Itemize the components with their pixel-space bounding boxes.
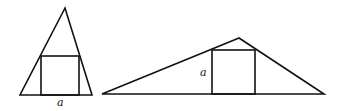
wide-triangle	[102, 38, 324, 94]
tall-triangle-figure: a	[20, 8, 92, 109]
side-label-a-left: a	[57, 96, 64, 109]
side-label-a-right: a	[200, 66, 207, 79]
inscribed-square-right	[212, 50, 255, 94]
diagram-canvas: a a	[0, 0, 338, 111]
wide-triangle-figure: a	[102, 38, 324, 94]
tall-triangle	[20, 8, 92, 95]
inscribed-square-left	[41, 56, 79, 95]
